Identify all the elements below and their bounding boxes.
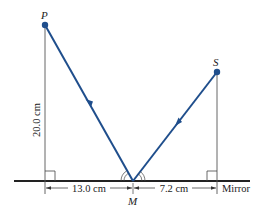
left-distance-label: 13.0 cm <box>72 183 106 194</box>
label-m: M <box>127 195 138 207</box>
point-s <box>214 69 220 75</box>
reflection-diagram: P S M 20.0 cm 13.0 cm 7.2 cm Mirror <box>0 0 265 212</box>
point-p <box>42 22 48 28</box>
reflected-arrow-icon <box>86 99 94 107</box>
dimension-arrow-right-end-icon <box>211 186 216 190</box>
right-angle-mark-p <box>45 171 55 181</box>
angle-arc-left-inner <box>124 173 128 181</box>
dimension-arrow-right-start-icon <box>134 186 139 190</box>
incident-ray <box>133 72 217 181</box>
label-p: P <box>40 9 48 21</box>
dimension-arrow-left-end-icon <box>127 186 132 190</box>
height-label: 20.0 cm <box>31 103 42 137</box>
right-angle-mark-s <box>207 171 217 181</box>
label-s: S <box>213 56 219 68</box>
right-distance-label: 7.2 cm <box>160 183 189 194</box>
dimension-arrow-left-start-icon <box>46 186 51 190</box>
mirror-label: Mirror <box>222 183 250 194</box>
